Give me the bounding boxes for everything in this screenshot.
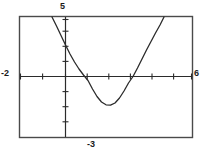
y-min-label: -3 xyxy=(87,140,95,149)
y-max-label: 5 xyxy=(60,2,65,11)
plot-svg xyxy=(0,0,204,152)
graph-canvas: 5 -2 6 -3 xyxy=(0,0,204,152)
x-min-label: -2 xyxy=(1,69,9,78)
parabola-curve xyxy=(52,17,164,105)
x-max-label: 6 xyxy=(194,69,199,78)
